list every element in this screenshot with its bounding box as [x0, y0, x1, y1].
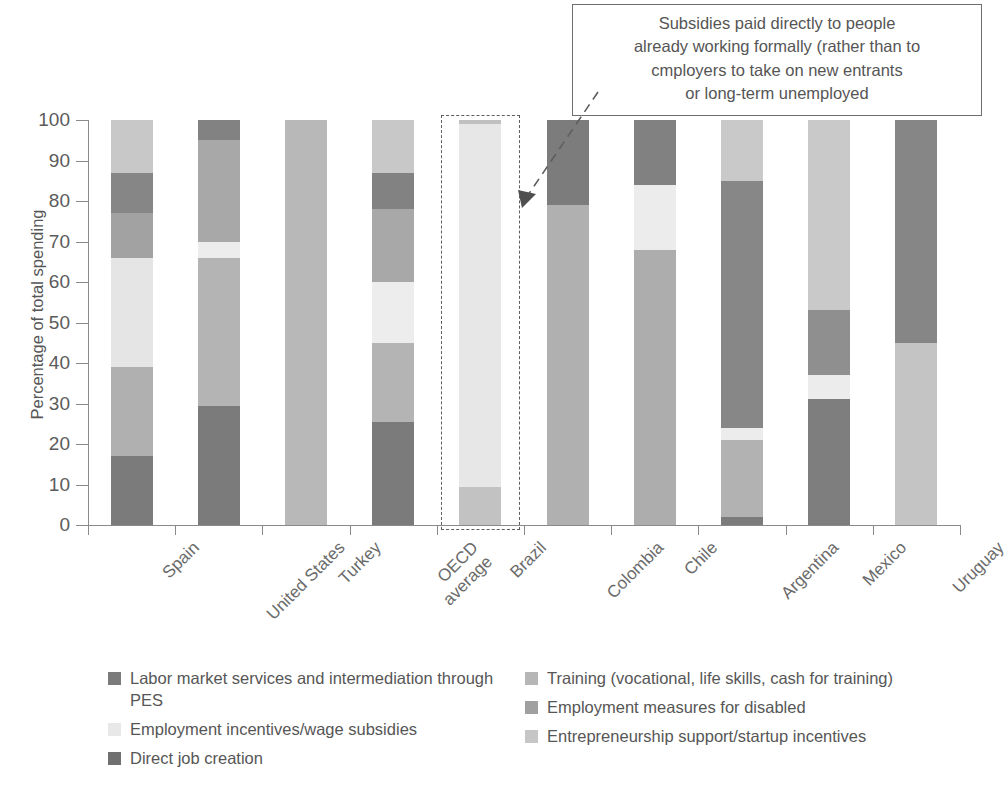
legend-label: Training (vocational, life skills, cash … — [547, 668, 893, 690]
y-tick-label: 90 — [49, 150, 70, 172]
legend-item[interactable]: Employment measures for disabled — [525, 697, 985, 719]
y-tick-mark — [76, 120, 88, 121]
bar-segment[interactable] — [372, 343, 414, 422]
bar-segment[interactable] — [198, 120, 240, 140]
bar-segment[interactable] — [808, 310, 850, 375]
x-tick-mark — [698, 525, 699, 535]
bar-spain[interactable] — [111, 120, 153, 525]
y-tick-label: 60 — [49, 271, 70, 293]
bar-argentina[interactable] — [721, 120, 763, 525]
bar-segment[interactable] — [285, 120, 327, 525]
bar-turkey[interactable] — [285, 120, 327, 525]
y-axis-title: Percentage of total spending — [28, 155, 47, 475]
y-tick-label: 70 — [49, 231, 70, 253]
x-label-mexico: Mexico — [859, 538, 911, 590]
y-tick-mark — [76, 323, 88, 324]
x-label-argentina: Argentina — [777, 538, 843, 604]
brazil-highlight-box — [441, 115, 520, 530]
bar-segment[interactable] — [111, 120, 153, 173]
legend-swatch-icon — [108, 723, 121, 736]
x-label-united-states: United States — [263, 538, 349, 624]
x-label-colombia: Colombia — [603, 538, 668, 603]
bar-segment[interactable] — [721, 440, 763, 517]
x-tick-mark — [786, 525, 787, 535]
bar-segment[interactable] — [547, 120, 589, 205]
bar-segment[interactable] — [111, 173, 153, 214]
x-label-line: Argentina — [777, 538, 843, 604]
bar-segment[interactable] — [111, 456, 153, 525]
bar-segment[interactable] — [634, 185, 676, 250]
legend-item[interactable]: Employment incentives/wage subsidies — [108, 719, 508, 741]
bar-segment[interactable] — [198, 406, 240, 525]
y-tick-mark — [76, 404, 88, 405]
y-tick-label: 0 — [59, 514, 70, 536]
bar-segment[interactable] — [111, 213, 153, 258]
bar-segment[interactable] — [808, 375, 850, 399]
x-tick-mark — [873, 525, 874, 535]
legend-label: Labor market services and intermediation… — [130, 668, 508, 712]
y-tick-label: 100 — [38, 109, 70, 131]
legend-item[interactable]: Labor market services and intermediation… — [108, 668, 508, 712]
x-label-line: Mexico — [859, 538, 911, 590]
bar-segment[interactable] — [808, 399, 850, 525]
bar-segment[interactable] — [372, 282, 414, 343]
x-label-chile: Chile — [680, 538, 722, 580]
bar-segment[interactable] — [198, 242, 240, 258]
legend-item[interactable]: Training (vocational, life skills, cash … — [525, 668, 985, 690]
legend-label: Direct job creation — [130, 748, 263, 770]
bar-segment[interactable] — [721, 120, 763, 181]
bar-mexico[interactable] — [808, 120, 850, 525]
bar-segment[interactable] — [895, 120, 937, 343]
legend-label: Employment measures for disabled — [547, 697, 806, 719]
bar-segment[interactable] — [721, 181, 763, 428]
bar-segment[interactable] — [111, 367, 153, 456]
bar-chile[interactable] — [634, 120, 676, 525]
bar-segment[interactable] — [372, 120, 414, 173]
x-tick-mark — [262, 525, 263, 535]
bar-segment[interactable] — [895, 343, 937, 525]
bar-colombia[interactable] — [547, 120, 589, 525]
bar-segment[interactable] — [721, 517, 763, 525]
y-tick-mark — [76, 525, 88, 526]
bar-segment[interactable] — [634, 120, 676, 185]
legend-item[interactable]: Direct job creation — [108, 748, 508, 770]
x-label-brazil: Brazil — [507, 538, 551, 582]
x-label-line: Brazil — [507, 538, 551, 582]
bar-segment[interactable] — [372, 209, 414, 282]
y-tick-label: 10 — [49, 474, 70, 496]
bar-segment[interactable] — [721, 428, 763, 440]
x-label-uruguay: Uruguay — [949, 538, 1008, 598]
y-tick-mark — [76, 201, 88, 202]
y-tick-mark — [76, 282, 88, 283]
bar-segment[interactable] — [372, 422, 414, 525]
y-tick-label: 30 — [49, 393, 70, 415]
y-tick-mark — [76, 161, 88, 162]
bar-uruguay[interactable] — [895, 120, 937, 525]
x-label-oecd-average: OECDaverage — [425, 538, 497, 610]
legend-swatch-icon — [525, 730, 538, 743]
bar-segment[interactable] — [111, 258, 153, 367]
bar-oecd-average[interactable] — [372, 120, 414, 525]
y-tick-label: 20 — [49, 433, 70, 455]
bar-united-states[interactable] — [198, 120, 240, 525]
bar-segment[interactable] — [198, 258, 240, 406]
legend-column-right: Training (vocational, life skills, cash … — [525, 668, 985, 755]
bar-segment[interactable] — [547, 205, 589, 525]
x-tick-mark — [960, 525, 961, 535]
legend-swatch-icon — [525, 672, 538, 685]
x-tick-mark — [88, 525, 89, 535]
bar-segment[interactable] — [372, 173, 414, 209]
y-tick-label: 80 — [49, 190, 70, 212]
x-tick-mark — [437, 525, 438, 535]
bar-segment[interactable] — [634, 250, 676, 525]
legend-item[interactable]: Entrepreneurship support/startup incenti… — [525, 726, 985, 748]
legend-column-left: Labor market services and intermediation… — [108, 668, 508, 777]
bar-segment[interactable] — [198, 140, 240, 241]
x-tick-mark — [524, 525, 525, 535]
y-axis-line — [88, 120, 89, 525]
legend-label: Entrepreneurship support/startup incenti… — [547, 726, 866, 748]
bar-segment[interactable] — [808, 120, 850, 310]
x-label-line: Chile — [680, 538, 722, 580]
x-tick-mark — [350, 525, 351, 535]
